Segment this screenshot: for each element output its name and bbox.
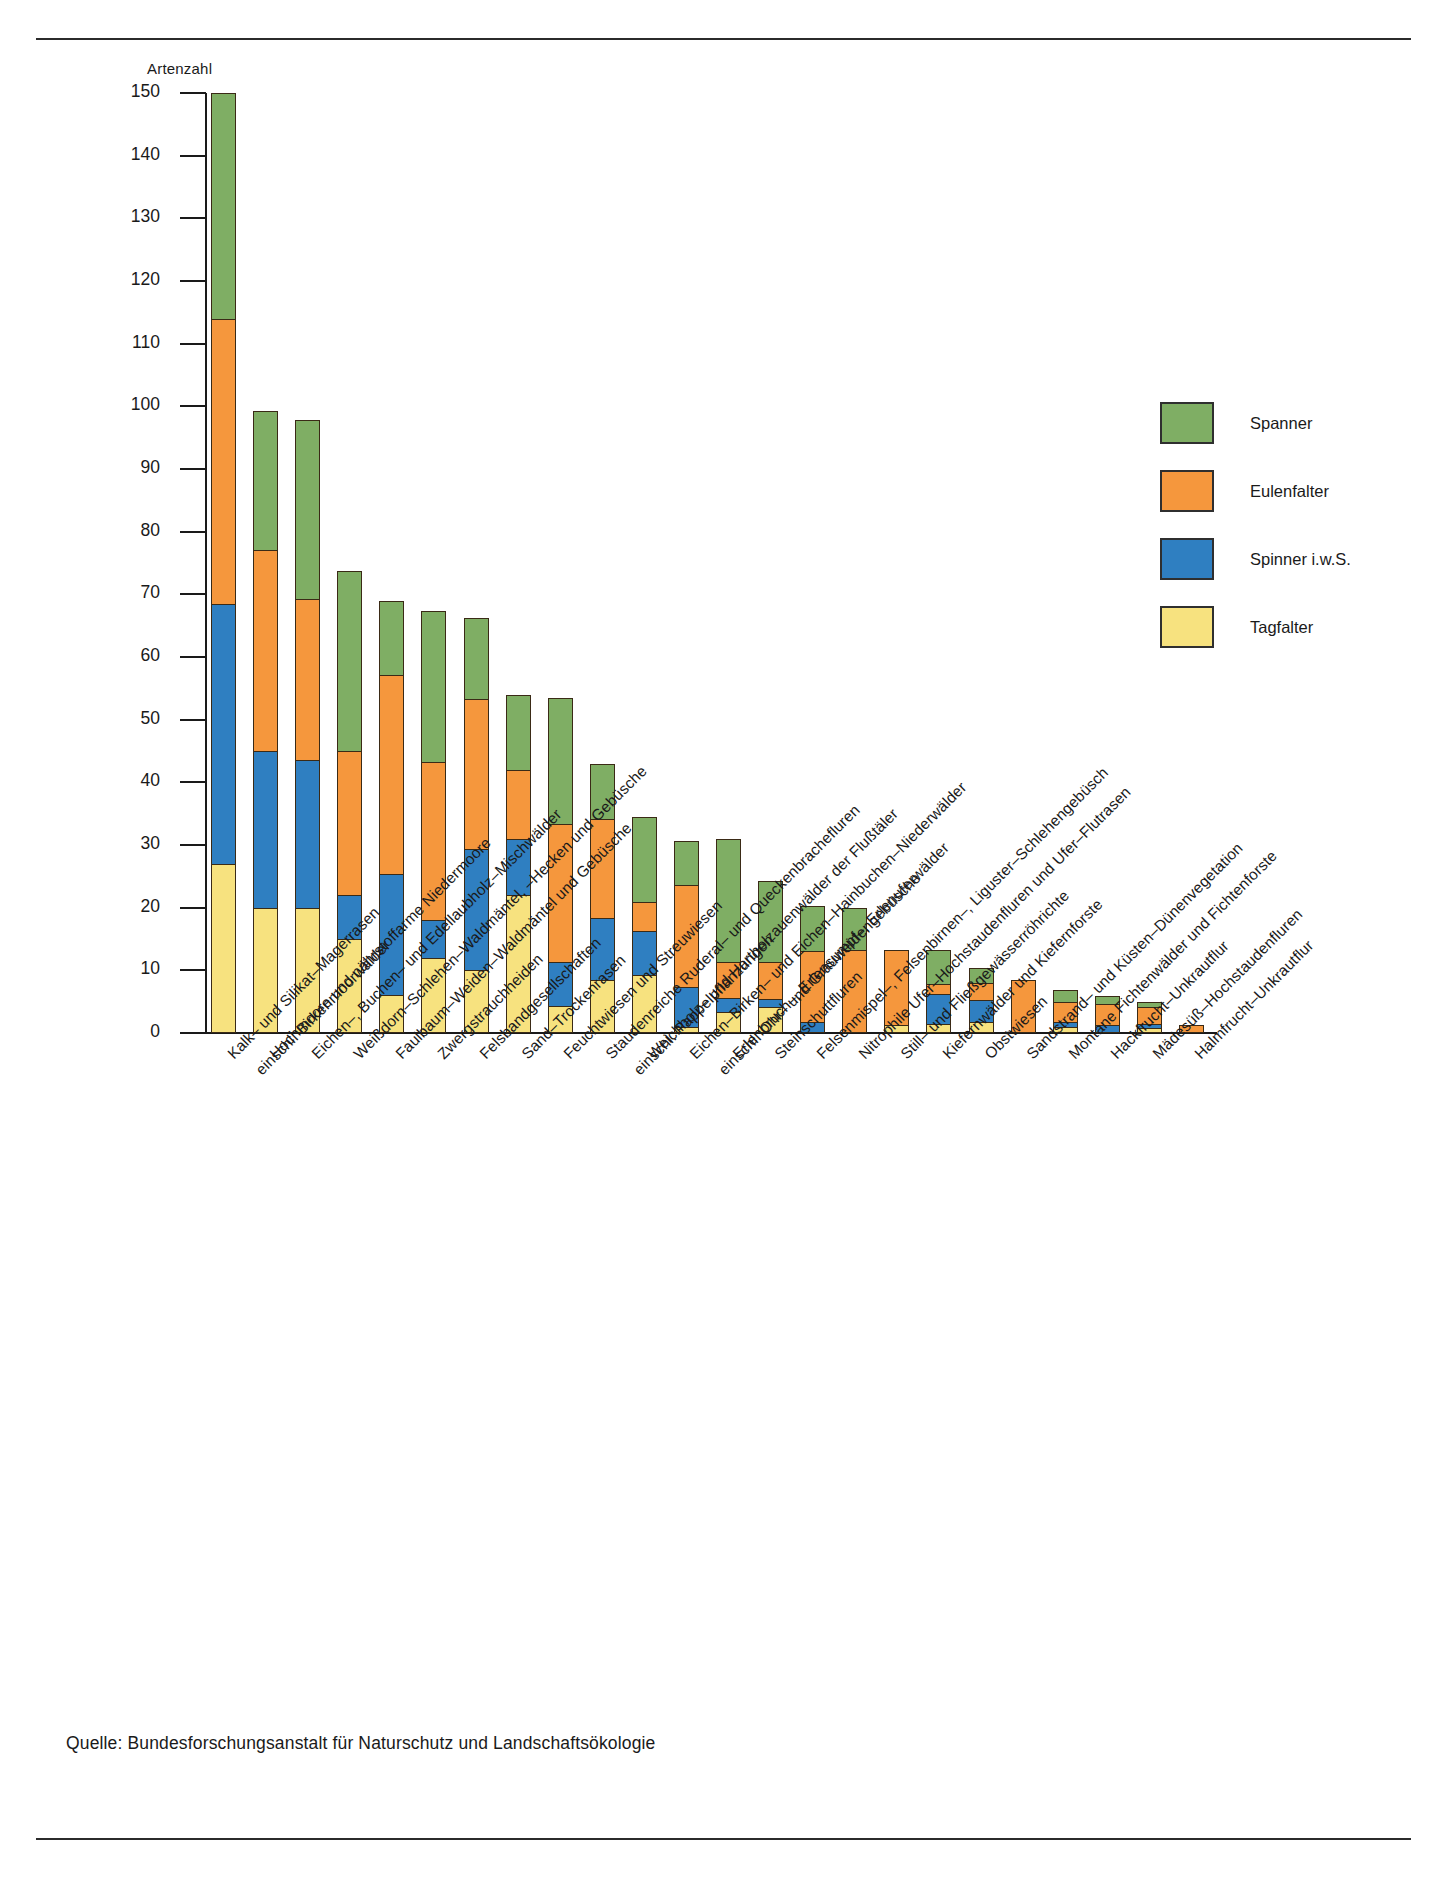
- legend-item[interactable]: Spinner i.w.S.: [1160, 531, 1410, 587]
- y-tick-mark: [180, 217, 206, 219]
- bar-segment-eulenfalter: [632, 902, 657, 931]
- legend-label: Eulenfalter: [1250, 482, 1329, 501]
- bar[interactable]: [253, 411, 278, 1033]
- y-tick-label: 20: [141, 896, 160, 917]
- legend-label: Spinner i.w.S.: [1250, 550, 1351, 569]
- y-tick-mark: [180, 531, 206, 533]
- bar-segment-eulenfalter: [253, 550, 278, 751]
- source-note: Quelle: Bundesforschungsanstalt für Natu…: [66, 1733, 655, 1754]
- y-tick-label: 130: [131, 206, 160, 227]
- y-tick-mark: [180, 92, 206, 94]
- bar-segment-tagfalter: [211, 864, 236, 1033]
- y-tick-label: 80: [141, 520, 160, 541]
- legend-label: Tagfalter: [1250, 618, 1313, 637]
- y-tick-mark: [180, 844, 206, 846]
- y-tick-mark: [180, 969, 206, 971]
- y-tick-label: 40: [141, 770, 160, 791]
- bar-segment-spanner: [379, 601, 404, 676]
- x-axis-labels: Kalk– und Silikat–MagerrasenHochmoore un…: [0, 1036, 1447, 1456]
- bar-segment-eulenfalter: [379, 675, 404, 874]
- legend-item[interactable]: Spanner: [1160, 395, 1410, 451]
- bar-segment-spanner: [506, 695, 531, 770]
- bar-segment-spanner: [421, 611, 446, 762]
- y-tick-mark: [180, 593, 206, 595]
- bar[interactable]: [295, 420, 320, 1033]
- y-tick-mark: [180, 1032, 206, 1034]
- y-tick-mark: [180, 781, 206, 783]
- stacked-bar-chart: Artenzahl 010203040506070809010011012013…: [0, 0, 1447, 1882]
- bar-segment-spanner: [674, 841, 699, 885]
- y-tick-mark: [180, 907, 206, 909]
- y-tick-mark: [180, 155, 206, 157]
- bar-segment-spanner: [632, 817, 657, 902]
- y-tick-label: 10: [141, 958, 160, 979]
- bar-segment-spanner: [295, 420, 320, 599]
- y-tick-mark: [180, 343, 206, 345]
- y-tick-mark: [180, 405, 206, 407]
- y-tick-label: 110: [132, 332, 160, 353]
- y-tick-label: 120: [131, 269, 160, 290]
- y-tick-label: 150: [131, 81, 160, 102]
- bar-segment-spinner-i-w-s: [253, 751, 278, 908]
- y-tick-mark: [180, 468, 206, 470]
- bar-segment-spinner-i-w-s: [211, 604, 236, 864]
- bar-segment-spanner: [464, 618, 489, 699]
- legend-swatch: [1160, 402, 1214, 444]
- legend-swatch: [1160, 538, 1214, 580]
- bar-segment-spinner-i-w-s: [295, 760, 320, 907]
- legend-item[interactable]: Eulenfalter: [1160, 463, 1410, 519]
- y-tick-label: 60: [141, 645, 160, 666]
- legend-label: Spanner: [1250, 414, 1312, 433]
- bar-segment-eulenfalter: [337, 751, 362, 895]
- y-tick-label: 140: [131, 144, 160, 165]
- y-tick-label: 30: [141, 833, 160, 854]
- y-tick-mark: [180, 719, 206, 721]
- legend-swatch: [1160, 606, 1214, 648]
- bar-segment-eulenfalter: [211, 319, 236, 604]
- y-axis-title: Artenzahl: [147, 60, 212, 77]
- y-tick-label: 70: [141, 582, 160, 603]
- y-tick-label: 100: [131, 394, 160, 415]
- y-tick-label: 50: [141, 708, 160, 729]
- bar-segment-eulenfalter: [464, 699, 489, 849]
- bar-segment-spanner: [211, 93, 236, 319]
- bar[interactable]: [211, 93, 236, 1033]
- chart-legend: SpannerEulenfalterSpinner i.w.S.Tagfalte…: [1160, 395, 1410, 667]
- legend-item[interactable]: Tagfalter: [1160, 599, 1410, 655]
- bar-segment-spanner: [253, 411, 278, 550]
- y-tick-mark: [180, 280, 206, 282]
- bar-segment-eulenfalter: [506, 770, 531, 839]
- bar-segment-eulenfalter: [295, 599, 320, 761]
- legend-swatch: [1160, 470, 1214, 512]
- y-tick-label: 90: [141, 457, 160, 478]
- bar-segment-spanner: [337, 571, 362, 751]
- y-tick-mark: [180, 656, 206, 658]
